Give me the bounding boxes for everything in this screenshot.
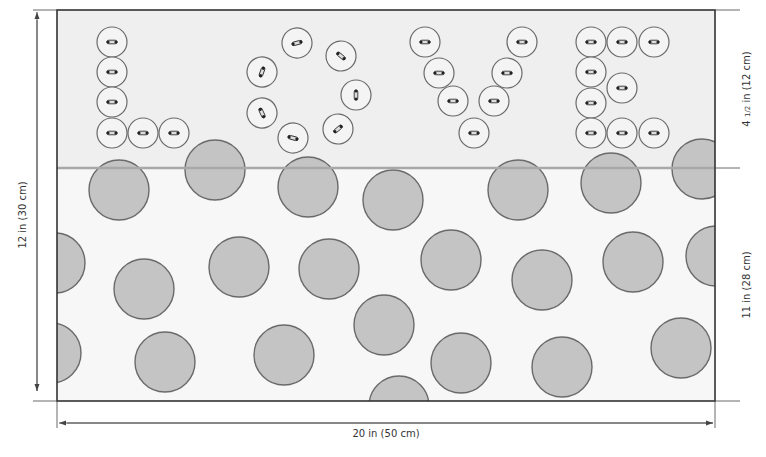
- button-e: [576, 88, 606, 118]
- bottom-band-height-label: 11 in (28 cm): [741, 251, 752, 318]
- button-l: [159, 118, 189, 148]
- polka-dot: [651, 318, 711, 378]
- polka-dot: [254, 325, 314, 385]
- polka-dot: [421, 230, 481, 290]
- total-width-label: 20 in (50 cm): [352, 428, 419, 439]
- button-e: [576, 57, 606, 87]
- polka-dot: [532, 337, 592, 397]
- button-l: [128, 118, 158, 148]
- polka-dot: [21, 323, 81, 383]
- button-v: [424, 58, 454, 88]
- polka-dot: [354, 295, 414, 355]
- polka-dot: [603, 232, 663, 292]
- polka-dot: [512, 250, 572, 310]
- button-e: [639, 27, 669, 57]
- button-l: [97, 57, 127, 87]
- button-v: [479, 86, 509, 116]
- polka-dot: [114, 259, 174, 319]
- button-v: [492, 58, 522, 88]
- button-v: [459, 118, 489, 148]
- polka-dot: [299, 239, 359, 299]
- button-v: [438, 86, 468, 116]
- button-e: [576, 27, 606, 57]
- polka-dot: [25, 233, 85, 293]
- polka-dot: [363, 170, 423, 230]
- pattern-diagram: 12 in (30 cm) 11 in (28 cm) 4 1/2 in (12…: [0, 0, 766, 457]
- button-e: [576, 118, 606, 148]
- button-e: [607, 118, 637, 148]
- button-l: [97, 87, 127, 117]
- button-e: [607, 27, 637, 57]
- total-height-label: 12 in (30 cm): [17, 181, 28, 248]
- button-v: [410, 27, 440, 57]
- polka-dot: [581, 153, 641, 213]
- polka-dot: [686, 226, 746, 286]
- button-v: [507, 27, 537, 57]
- polka-dot: [209, 237, 269, 297]
- polka-dot: [135, 332, 195, 392]
- button-o: [341, 80, 371, 110]
- polka-dot: [185, 140, 245, 200]
- polka-dot: [431, 333, 491, 393]
- top-band-height-label: 4 1/2 in (12 cm): [741, 51, 752, 126]
- button-e: [607, 73, 637, 103]
- button-l: [97, 118, 127, 148]
- polka-dot: [278, 157, 338, 217]
- button-e: [639, 118, 669, 148]
- fabric-panel: [21, 10, 746, 436]
- button-l: [97, 27, 127, 57]
- polka-dot: [369, 376, 429, 436]
